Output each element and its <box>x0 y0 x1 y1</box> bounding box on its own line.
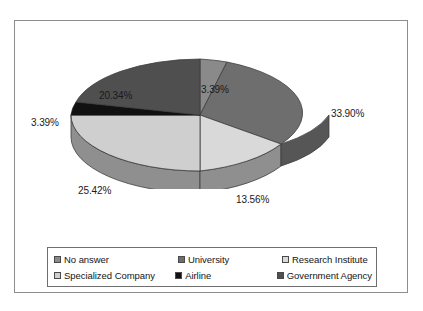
legend-swatch-icon <box>277 272 284 279</box>
legend-item-airline[interactable]: Airline <box>175 267 277 283</box>
legend-item-research-institute[interactable]: Research Institute <box>282 251 368 267</box>
slice-label-government-agency: 20.34% <box>99 90 132 101</box>
chart-frame: 3.39% 33.90% 13.56% 25.42% 3.39% 20.34% … <box>14 20 408 293</box>
legend-swatch-icon <box>282 256 289 263</box>
top-scan-artifact <box>14 0 84 6</box>
legend-item-no-answer[interactable]: No answer <box>54 251 178 267</box>
legend-row: No answer University Research Institute <box>54 251 372 267</box>
legend-label: Government Agency <box>287 270 372 281</box>
legend-row: Specialized Company Airline Government A… <box>54 267 372 283</box>
legend-label: Specialized Company <box>64 270 155 281</box>
legend-swatch-icon <box>175 272 182 279</box>
legend-label: No answer <box>64 254 109 265</box>
legend-swatch-icon <box>54 256 61 263</box>
chart-legend: No answer University Research Institute … <box>47 247 377 287</box>
pie-chart-graphic <box>65 49 335 189</box>
legend-item-government-agency[interactable]: Government Agency <box>277 267 372 283</box>
slice-label-specialized-company: 25.42% <box>78 185 111 196</box>
slice-label-research-institute: 13.56% <box>236 194 269 205</box>
legend-swatch-icon <box>178 256 185 263</box>
slice-label-no-answer: 3.39% <box>201 84 229 95</box>
slice-label-university: 33.90% <box>331 108 364 119</box>
legend-item-specialized-company[interactable]: Specialized Company <box>54 267 175 283</box>
legend-label: Research Institute <box>292 254 368 265</box>
legend-swatch-icon <box>54 272 61 279</box>
legend-label: Airline <box>185 270 211 281</box>
slice-label-airline: 3.39% <box>31 117 59 128</box>
legend-item-university[interactable]: University <box>178 251 282 267</box>
legend-label: University <box>188 254 229 265</box>
